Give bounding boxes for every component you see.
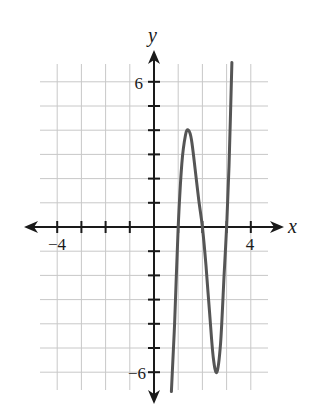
axes bbox=[24, 50, 284, 404]
x-axis-label: x bbox=[287, 215, 297, 237]
y-tick-label-neg6: −6 bbox=[128, 364, 146, 383]
y-tick-label-6: 6 bbox=[135, 74, 144, 93]
axis-labels: x y −4 4 6 −6 bbox=[48, 24, 297, 383]
graph-canvas: x y −4 4 6 −6 bbox=[0, 0, 314, 417]
y-axis-label: y bbox=[146, 24, 157, 47]
x-tick-label-neg4: −4 bbox=[48, 235, 67, 254]
x-tick-label-4: 4 bbox=[246, 235, 255, 254]
